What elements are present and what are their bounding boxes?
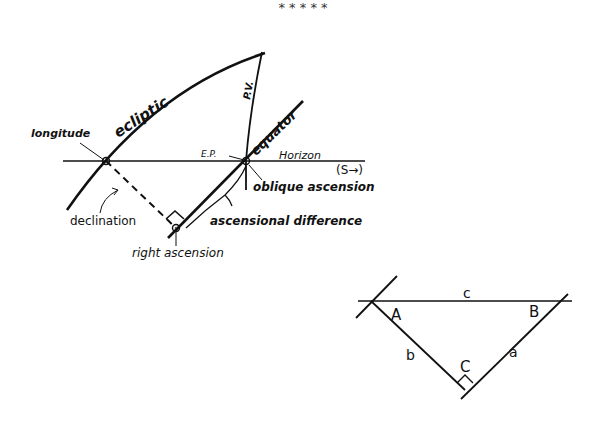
ecliptic-curve	[67, 53, 265, 210]
vertex-c-label: C	[460, 358, 470, 376]
vertex-a-label: A	[391, 306, 402, 324]
separator-stars: * * * * *	[278, 0, 328, 15]
diagram-canvas: * * * * * ecliptic P.V. equator	[0, 0, 606, 424]
ep-label: E.P.	[201, 149, 217, 159]
longitude-leader	[80, 143, 104, 160]
figure-celestial-triangle: ecliptic P.V. equator longitude E.P. Hor…	[31, 52, 375, 260]
ecliptic-label: ecliptic	[110, 93, 171, 142]
longitude-label: longitude	[31, 127, 91, 140]
ascensional-difference-label: ascensional difference	[210, 214, 362, 228]
side-a-label: a	[509, 344, 518, 360]
right-angle-marker	[166, 211, 184, 219]
declination-label: declination	[70, 214, 136, 228]
south-direction-label: (S→)	[336, 163, 363, 177]
horizon-label: Horizon	[279, 149, 321, 162]
prime-vertical-curve	[246, 52, 262, 190]
right-ascension-label: right ascension	[132, 246, 224, 260]
side-b-label: b	[406, 347, 415, 363]
ep-leader	[229, 156, 244, 160]
side-b-line	[371, 301, 465, 390]
side-c-label: c	[463, 285, 471, 301]
figure-right-spherical-triangle: A B C c b a	[356, 276, 572, 399]
right-angle-marker-c	[457, 375, 473, 383]
oblique-ascension-leader	[249, 165, 262, 180]
oblique-ascension-label: oblique ascension	[253, 180, 375, 194]
vertex-b-label: B	[529, 303, 539, 321]
